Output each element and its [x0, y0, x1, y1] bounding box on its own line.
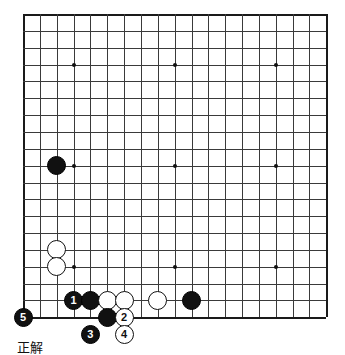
board-line-vertical-13 [242, 14, 243, 317]
move-number-label: 2 [121, 312, 127, 323]
board-line-vertical-11 [208, 14, 209, 317]
black-stone-g[interactable] [182, 291, 201, 310]
board-line-horizontal-11 [23, 199, 326, 200]
star-point-icon-0 [72, 63, 76, 67]
board-line-vertical-14 [259, 14, 260, 317]
white-stone-move-2[interactable]: 2 [115, 308, 134, 327]
move-number-label: 3 [87, 329, 93, 340]
star-point-icon-7 [173, 265, 177, 269]
go-board[interactable]: 15234 [23, 14, 326, 317]
move-number-label: 1 [70, 295, 76, 306]
black-stone-move-5[interactable]: 5 [14, 308, 33, 327]
board-line-horizontal-10 [23, 183, 326, 184]
board-line-vertical-16 [293, 14, 294, 317]
star-point-icon-3 [72, 164, 76, 168]
go-diagram: 15234 正解 [0, 0, 345, 355]
star-point-icon-4 [173, 164, 177, 168]
star-point-icon-8 [274, 265, 278, 269]
board-line-horizontal-13 [23, 233, 326, 234]
white-stone-b[interactable] [47, 257, 66, 276]
star-point-icon-5 [274, 164, 278, 168]
diagram-caption: 正解 [17, 337, 43, 355]
black-stone-h[interactable] [98, 308, 117, 327]
board-line-vertical-17 [309, 14, 310, 317]
white-stone-f[interactable] [148, 291, 167, 310]
board-line-vertical-10 [192, 14, 193, 317]
board-line-horizontal-12 [23, 216, 326, 217]
board-line-vertical-18 [326, 14, 328, 317]
board-line-horizontal-16 [23, 284, 326, 285]
board-line-vertical-12 [225, 14, 226, 317]
move-number-label: 5 [20, 312, 26, 323]
white-stone-move-4[interactable]: 4 [115, 325, 134, 344]
black-stone-upper-left[interactable] [47, 156, 66, 175]
black-stone-move-3[interactable]: 3 [81, 325, 100, 344]
star-point-icon-2 [274, 63, 278, 67]
star-point-icon-1 [173, 63, 177, 67]
move-number-label: 4 [121, 329, 127, 340]
board-line-horizontal-14 [23, 250, 326, 251]
board-line-horizontal-18 [23, 317, 326, 319]
star-point-icon-6 [72, 265, 76, 269]
